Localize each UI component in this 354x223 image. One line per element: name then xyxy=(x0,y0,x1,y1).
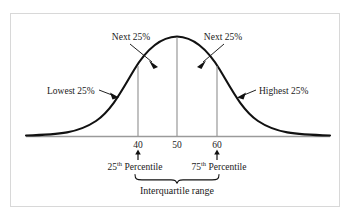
percentile-25-number: 25 xyxy=(108,162,118,172)
percentile-75-superscript: th xyxy=(201,160,206,167)
annotation-lowest: Lowest 25% xyxy=(47,87,95,97)
annotation-highest: Highest 25% xyxy=(259,87,308,97)
interquartile-brace xyxy=(135,175,219,184)
arrowhead-next-right xyxy=(197,61,206,70)
label-75th-percentile: 75th Percentile xyxy=(192,163,247,173)
label-25th-percentile: 25th Percentile xyxy=(108,163,163,173)
annotation-next-right: Next 25% xyxy=(204,33,242,43)
percentile-75-number: 75 xyxy=(192,162,202,172)
annotation-next-left: Next 25% xyxy=(112,33,150,43)
leader-line-highest xyxy=(244,90,256,95)
label-interquartile-range: Interquartile range xyxy=(140,186,214,196)
percentile-25-superscript: th xyxy=(117,160,122,167)
tick-label-60: 60 xyxy=(212,141,222,151)
arrowhead-next-left xyxy=(149,61,158,70)
tick-label-40: 40 xyxy=(133,141,143,151)
tick-label-50: 50 xyxy=(172,141,182,151)
leader-line-lowest xyxy=(99,90,112,95)
percentile-75-word: Percentile xyxy=(208,162,246,172)
percentile-25-word: Percentile xyxy=(124,162,162,172)
figure-page: Next 25% Next 25% Lowest 25% Highest 25%… xyxy=(0,0,354,223)
